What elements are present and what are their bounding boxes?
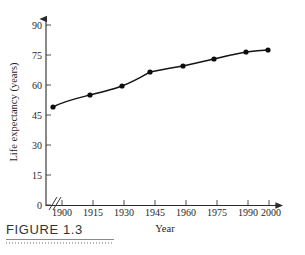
data-point-1945 [147, 69, 152, 74]
life-expectancy-curve [53, 50, 268, 107]
x-tick-label-1930: 1930 [114, 207, 134, 218]
data-point-1990 [243, 49, 248, 54]
y-tick-label-75: 75 [32, 50, 42, 61]
y-tick-label-60: 60 [32, 80, 42, 91]
x-tick-label-1960: 1960 [176, 207, 196, 218]
data-point-markers [50, 47, 270, 109]
caption-dotted-rule [6, 242, 114, 244]
caption-underline [6, 239, 114, 240]
y-tick-label-0: 0 [37, 200, 42, 211]
x-tick-label-1945: 1945 [145, 207, 165, 218]
figure-container: 90 75 60 45 30 15 0 1900 1915 1930 1945 … [0, 0, 305, 255]
y-axis-ticks [46, 25, 51, 205]
figure-caption-block: FIGURE 1.3 [6, 223, 156, 244]
y-tick-label-90: 90 [32, 20, 42, 31]
data-point-1915 [87, 92, 92, 97]
y-axis-title: Life expectancy (years) [8, 62, 20, 162]
y-tick-label-30: 30 [32, 140, 42, 151]
data-point-1975 [211, 56, 216, 61]
x-tick-label-2000: 2000 [261, 207, 281, 218]
y-tick-label-15: 15 [32, 170, 42, 181]
data-point-1900 [50, 104, 55, 109]
data-point-1960 [180, 63, 185, 68]
y-tick-label-45: 45 [32, 110, 42, 121]
x-tick-label-1990: 1990 [238, 207, 258, 218]
x-axis-title: Year [155, 223, 175, 234]
figure-caption-text: FIGURE 1.3 [6, 223, 156, 237]
life-expectancy-line-chart: 90 75 60 45 30 15 0 1900 1915 1930 1945 … [0, 0, 305, 255]
data-point-2000 [265, 47, 270, 52]
x-axis-ticks [62, 200, 269, 206]
data-point-1930 [119, 83, 124, 88]
x-tick-label-1900: 1900 [52, 207, 72, 218]
x-tick-label-1975: 1975 [207, 207, 227, 218]
x-tick-label-1915: 1915 [83, 207, 103, 218]
